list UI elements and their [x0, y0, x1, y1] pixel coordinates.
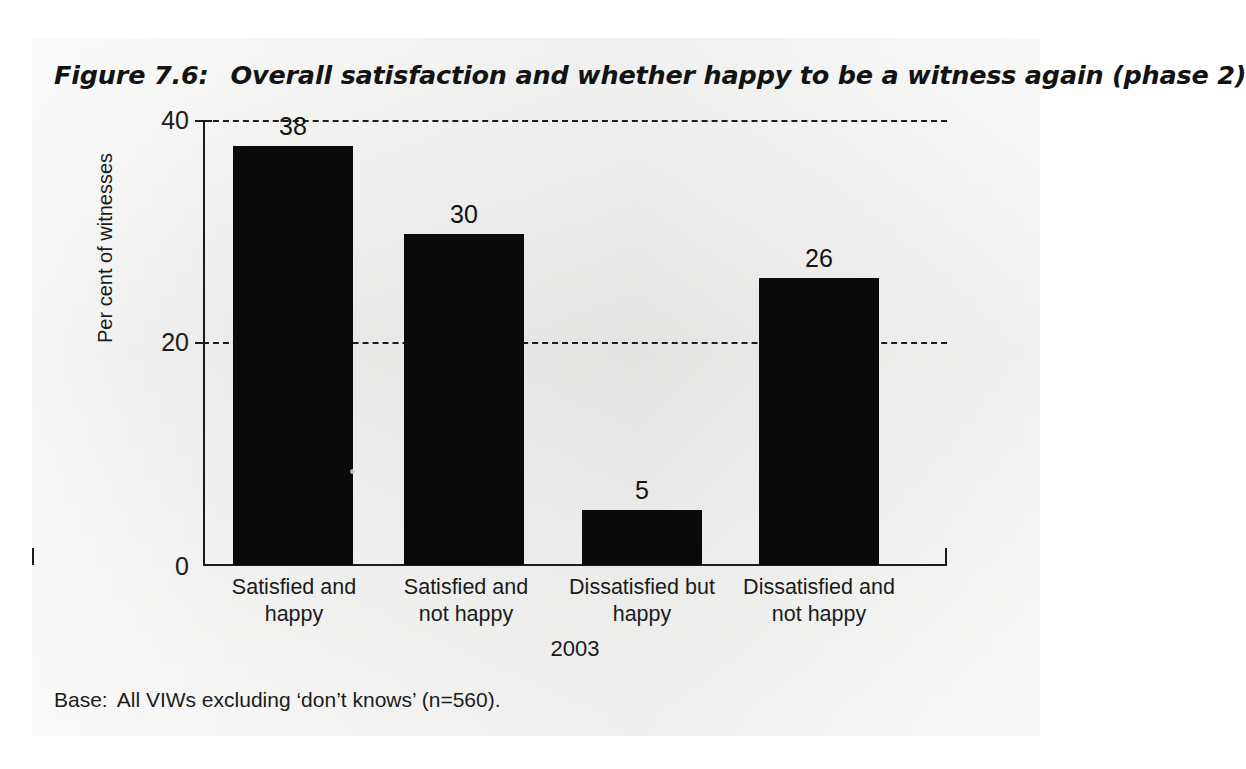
x-category-label-2: Satisfied and not happy — [384, 574, 548, 628]
x-tick-hidden — [32, 548, 34, 565]
y-tick-40 — [195, 120, 205, 122]
x-category-label-4-line2: not happy — [737, 601, 901, 628]
footnote-text: All VIWs excluding ‘don’t knows’ (n=560)… — [117, 688, 501, 711]
x-category-label-3: Dissatisfied but happy — [560, 574, 724, 628]
bar-satisfied-and-happy[interactable] — [233, 146, 353, 565]
bar-chart: 40 20 0 38 30 5 26 Satisfied and happ — [32, 38, 1040, 736]
x-axis-title: 2003 — [203, 636, 947, 662]
bar-dissatisfied-but-happy[interactable] — [582, 510, 702, 565]
x-category-label-4: Dissatisfied and not happy — [737, 574, 901, 628]
y-tick-label-40: 40 — [133, 106, 189, 135]
bar-satisfied-and-not-happy[interactable] — [404, 234, 524, 565]
y-tick-20 — [195, 342, 205, 344]
x-category-label-1-line1: Satisfied and — [212, 574, 376, 601]
scan-speck — [350, 469, 355, 474]
x-category-label-1: Satisfied and happy — [212, 574, 376, 628]
bar-value-label-2: 30 — [404, 200, 524, 229]
figure-panel: Figure 7.6:Overall satisfaction and whet… — [32, 38, 1040, 736]
footnote-prefix: Base: — [54, 688, 108, 711]
bar-value-label-4: 26 — [759, 244, 879, 273]
x-category-label-3-line1: Dissatisfied but — [560, 574, 724, 601]
bar-value-label-1: 38 — [233, 112, 353, 141]
x-category-label-2-line2: not happy — [384, 601, 548, 628]
x-category-label-3-line2: happy — [560, 601, 724, 628]
bar-dissatisfied-and-not-happy[interactable] — [759, 278, 879, 565]
x-axis-end-tick — [945, 548, 947, 566]
bar-value-label-3: 5 — [582, 476, 702, 505]
y-tick-label-0: 0 — [133, 552, 189, 581]
y-axis-title: Per cent of witnesses — [94, 93, 117, 343]
figure-footnote: Base:All VIWs excluding ‘don’t knows’ (n… — [54, 688, 501, 712]
x-category-label-4-line1: Dissatisfied and — [737, 574, 901, 601]
y-tick-label-20: 20 — [133, 328, 189, 357]
x-category-label-2-line1: Satisfied and — [384, 574, 548, 601]
x-category-label-1-line2: happy — [212, 601, 376, 628]
